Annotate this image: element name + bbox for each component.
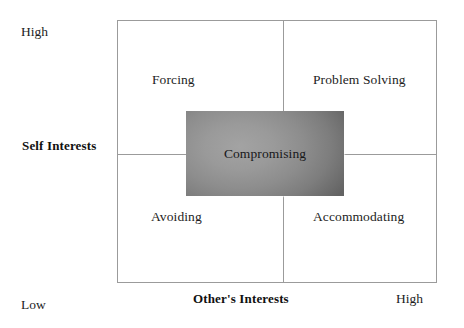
x-axis-high-label: High (396, 291, 423, 307)
quadrant-label-accommodating: Accommodating (313, 209, 404, 225)
center-compromising-box: Compromising (186, 111, 344, 196)
x-axis-title: Other's Interests (193, 291, 289, 307)
y-axis-high-label: High (21, 24, 48, 40)
quadrant-label-avoiding: Avoiding (151, 209, 202, 225)
y-axis-low-label: Low (21, 297, 46, 313)
quadrant-label-problem-solving: Problem Solving (313, 72, 406, 88)
center-box-label: Compromising (186, 146, 344, 162)
conflict-matrix-diagram: Forcing Problem Solving Avoiding Accommo… (0, 0, 464, 328)
quadrant-label-forcing: Forcing (152, 72, 195, 88)
y-axis-title: Self Interests (22, 138, 96, 154)
